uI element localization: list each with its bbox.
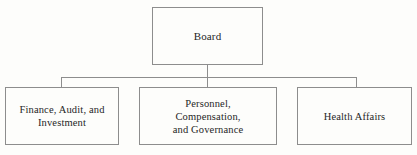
connector-distribution-bus <box>61 77 357 78</box>
connector-drop-personnel <box>207 77 208 87</box>
org-node-board-label: Board <box>153 30 262 43</box>
org-node-finance[interactable]: Finance, Audit, and Investment <box>5 87 119 145</box>
connector-drop-health <box>356 77 357 87</box>
org-node-health-label: Health Affairs <box>298 110 411 123</box>
org-node-personnel[interactable]: Personnel, Compensation, and Governance <box>139 87 277 145</box>
org-node-board[interactable]: Board <box>152 7 263 65</box>
connector-drop-finance <box>61 77 62 87</box>
org-node-finance-label: Finance, Audit, and Investment <box>6 103 118 129</box>
org-node-personnel-label: Personnel, Compensation, and Governance <box>140 97 276 136</box>
org-node-health[interactable]: Health Affairs <box>297 87 412 145</box>
org-chart: Board Finance, Audit, and Investment Per… <box>0 0 417 155</box>
